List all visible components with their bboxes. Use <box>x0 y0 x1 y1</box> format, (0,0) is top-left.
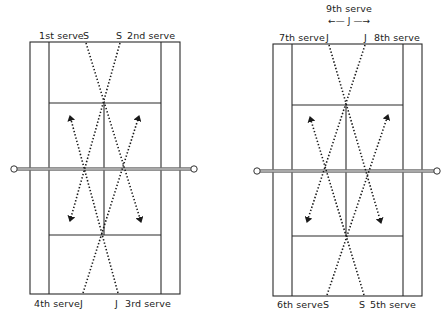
net-post-icon <box>434 168 440 174</box>
label-3rd-serve: 3rd serve <box>125 298 171 309</box>
marker-receiver-j: J <box>326 32 329 43</box>
marker-server-s: S <box>323 299 329 310</box>
net-post-icon <box>254 168 260 174</box>
marker-server-s: S <box>116 30 122 41</box>
label-1st-serve: 1st serve <box>39 30 84 41</box>
serve-rotation-diagram <box>0 0 448 318</box>
net-post-icon <box>191 166 197 172</box>
marker-server-s: S <box>359 299 365 310</box>
label-6th-serve: 6th serve <box>277 299 323 310</box>
label-2nd-serve: 2nd serve <box>127 30 175 41</box>
marker-receiver-j: J <box>115 298 118 309</box>
marker-9th-serve-j-arrows: ←— J —→ <box>328 16 370 27</box>
marker-server-s: S <box>83 30 89 41</box>
serve-path-6th <box>327 115 388 295</box>
marker-receiver-j: J <box>364 32 367 43</box>
label-7th-serve: 7th serve <box>279 32 325 43</box>
label-9th-serve: 9th serve <box>326 3 372 14</box>
label-8th-serve: 8th serve <box>374 32 420 43</box>
label-4th-serve: 4th serve <box>34 298 80 309</box>
net-post-icon <box>11 166 17 172</box>
label-5th-serve: 5th serve <box>370 299 416 310</box>
serve-path-5th <box>310 117 364 295</box>
right-net <box>254 168 440 174</box>
marker-receiver-j: J <box>80 298 83 309</box>
serve-path-7th <box>329 45 381 223</box>
